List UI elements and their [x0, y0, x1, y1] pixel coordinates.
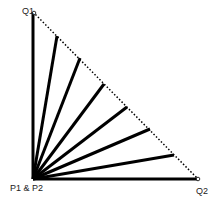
q2-point [196, 177, 200, 181]
ray-1 [33, 36, 57, 179]
ray-6 [33, 155, 174, 179]
ray-diagram [0, 0, 216, 206]
label-q2: Q2 [196, 186, 208, 196]
rays [33, 36, 174, 179]
label-q1: Q1 [22, 6, 34, 16]
label-origin: P1 & P2 [10, 183, 43, 193]
